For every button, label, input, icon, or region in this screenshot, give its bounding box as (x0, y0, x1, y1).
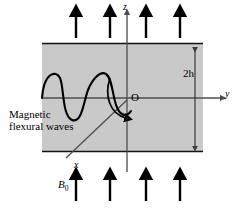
field-symbol: B (58, 178, 65, 190)
field-subscript: 0 (65, 184, 69, 193)
wave-caption-line1: Magnetic (9, 109, 73, 121)
field-label: B0 (58, 179, 68, 193)
wave-caption-line2: flexural waves (9, 121, 73, 133)
diagram-canvas (0, 0, 238, 213)
magnetic-flexural-waves-diagram: z y x O 2h B0 Magnetic flexural waves (0, 0, 238, 213)
wave-caption: Magnetic flexural waves (9, 109, 73, 132)
origin-label: O (131, 92, 139, 104)
thickness-label: 2h (183, 68, 194, 80)
axis-label-x: x (74, 160, 78, 171)
bottom-field-arrows (76, 177, 180, 201)
thickness-label-text: 2h (183, 67, 194, 79)
top-field-arrows (76, 14, 180, 38)
axis-label-y: y (225, 89, 229, 100)
axis-label-z: z (123, 2, 127, 13)
